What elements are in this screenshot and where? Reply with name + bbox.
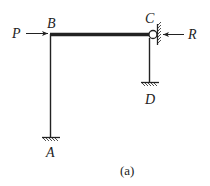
label-p: P bbox=[12, 27, 21, 41]
figure-caption: (a) bbox=[120, 164, 134, 177]
fixed-support-d-icon bbox=[141, 83, 159, 87]
load-r-arrow-icon bbox=[163, 32, 184, 37]
load-p-arrow-icon bbox=[26, 31, 48, 36]
label-b: B bbox=[47, 17, 56, 31]
label-d: D bbox=[145, 93, 155, 107]
fixed-support-a-icon bbox=[42, 138, 60, 142]
label-r: R bbox=[188, 28, 197, 42]
frame-diagram: P B C R D A (a) bbox=[0, 0, 210, 186]
label-c: C bbox=[145, 12, 154, 26]
label-a: A bbox=[46, 146, 55, 160]
frame-drawing bbox=[0, 0, 210, 186]
